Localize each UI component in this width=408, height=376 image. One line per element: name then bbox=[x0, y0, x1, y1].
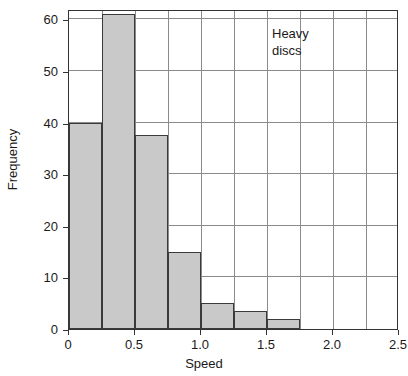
x-tick-mark bbox=[200, 330, 201, 335]
x-tick-label: 0.5 bbox=[112, 338, 156, 351]
annotation-line-2: discs bbox=[272, 43, 334, 60]
x-tick-label: 1.0 bbox=[178, 338, 222, 351]
x-tick-label: 0 bbox=[46, 338, 90, 351]
x-tick-label: 2.0 bbox=[310, 338, 354, 351]
bars-layer bbox=[69, 11, 397, 329]
histogram-bar bbox=[201, 303, 234, 329]
x-tick-mark bbox=[398, 330, 399, 335]
histogram-bar bbox=[102, 14, 135, 329]
x-tick-mark bbox=[68, 330, 69, 335]
histogram-bar bbox=[168, 252, 201, 329]
plot-area bbox=[68, 10, 398, 330]
histogram-bar bbox=[234, 311, 267, 329]
y-tick-label: 40 bbox=[14, 117, 58, 130]
y-tick-label: 20 bbox=[14, 220, 58, 233]
x-tick-mark bbox=[332, 330, 333, 335]
y-tick-label: 30 bbox=[14, 168, 58, 181]
annotation-heavy-discs: Heavy discs bbox=[272, 26, 334, 59]
x-tick-mark bbox=[266, 330, 267, 335]
y-tick-label: 60 bbox=[14, 13, 58, 26]
y-tick-label: 10 bbox=[14, 271, 58, 284]
histogram-bar bbox=[267, 319, 300, 329]
annotation-line-1: Heavy bbox=[272, 26, 334, 43]
x-tick-label: 2.5 bbox=[376, 338, 408, 351]
histogram-bar bbox=[135, 135, 168, 329]
x-tick-mark bbox=[134, 330, 135, 335]
x-axis-title: Speed bbox=[0, 356, 408, 371]
y-tick-label: 0 bbox=[14, 323, 58, 336]
histogram-figure: 0102030405060 00.51.01.52.02.5 Frequency… bbox=[0, 0, 408, 376]
x-tick-label: 1.5 bbox=[244, 338, 288, 351]
histogram-bar bbox=[69, 123, 102, 329]
y-tick-label: 50 bbox=[14, 65, 58, 78]
y-axis-title: Frequency bbox=[5, 100, 20, 220]
